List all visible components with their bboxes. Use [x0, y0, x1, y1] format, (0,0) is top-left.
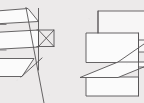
- front-main-rectangle: [86, 33, 139, 63]
- bottom-rectangle: [86, 77, 139, 96]
- figure-canvas: [0, 0, 144, 103]
- line-drawing-svg: [0, 0, 144, 103]
- mid-slab-face: [0, 30, 39, 50]
